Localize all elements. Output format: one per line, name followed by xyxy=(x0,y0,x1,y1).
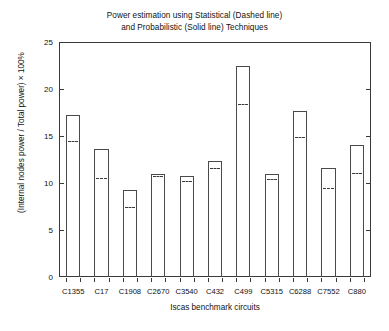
y-tick-label: 5 xyxy=(27,226,53,235)
y-tick-label: 20 xyxy=(27,85,53,94)
bar xyxy=(321,168,335,277)
x-tick-mark xyxy=(250,278,251,282)
statistical-dash-marker xyxy=(96,178,106,179)
x-tick-mark xyxy=(307,278,308,282)
bar xyxy=(180,176,194,277)
statistical-dash-marker xyxy=(153,176,163,177)
bar xyxy=(66,115,80,277)
chart-title-line-1: Power estimation using Statistical (Dash… xyxy=(0,10,389,22)
x-tick-label: C1908 xyxy=(119,287,141,296)
x-tick-mark xyxy=(336,278,337,282)
x-axis-label: Iscas benchmark circuits xyxy=(59,303,371,312)
figure: Power estimation using Statistical (Dash… xyxy=(0,0,389,331)
x-tick-mark xyxy=(364,278,365,282)
x-tick-label: C6288 xyxy=(289,287,311,296)
x-tick-mark xyxy=(180,278,181,282)
y-axis-label: (Internal nodes power / Total power) × 1… xyxy=(17,28,26,238)
bars-layer xyxy=(59,42,371,277)
y-tick-label: 25 xyxy=(27,38,53,47)
chart-title-line-2: and Probabilistic (Solid line) Technique… xyxy=(0,22,389,34)
y-tick-label: 0 xyxy=(27,273,53,282)
x-tick-label: C7552 xyxy=(317,287,339,296)
x-tick-mark xyxy=(137,278,138,282)
x-tick-mark xyxy=(66,278,67,282)
statistical-dash-marker xyxy=(323,188,333,189)
bar xyxy=(350,145,364,277)
bar xyxy=(236,66,250,278)
statistical-dash-marker xyxy=(68,141,78,142)
bar xyxy=(151,174,165,277)
x-tick-mark xyxy=(350,278,351,282)
x-tick-label: C17 xyxy=(95,287,109,296)
chart-title: Power estimation using Statistical (Dash… xyxy=(0,10,389,33)
statistical-dash-marker xyxy=(125,207,135,208)
x-tick-label: C2670 xyxy=(147,287,169,296)
x-tick-mark xyxy=(94,278,95,282)
x-tick-mark xyxy=(279,278,280,282)
x-tick-label: C432 xyxy=(206,287,224,296)
x-tick-mark xyxy=(165,278,166,282)
x-tick-mark xyxy=(80,278,81,282)
x-tick-mark xyxy=(109,278,110,282)
x-tick-mark xyxy=(222,278,223,282)
x-tick-mark xyxy=(236,278,237,282)
bar xyxy=(123,190,137,277)
bar xyxy=(265,174,279,277)
x-tick-mark xyxy=(321,278,322,282)
x-tick-mark xyxy=(208,278,209,282)
x-tick-label: C1355 xyxy=(62,287,84,296)
statistical-dash-marker xyxy=(210,168,220,169)
x-tick-label: C499 xyxy=(234,287,252,296)
bar xyxy=(94,149,108,277)
statistical-dash-marker xyxy=(352,173,362,174)
bar xyxy=(208,161,222,277)
x-tick-label: C880 xyxy=(348,287,366,296)
x-tick-label: C3540 xyxy=(175,287,197,296)
x-tick-mark xyxy=(293,278,294,282)
x-tick-mark xyxy=(123,278,124,282)
statistical-dash-marker xyxy=(182,181,192,182)
x-tick-label: C5315 xyxy=(261,287,283,296)
x-tick-mark xyxy=(194,278,195,282)
x-tick-mark xyxy=(151,278,152,282)
statistical-dash-marker xyxy=(238,104,248,105)
statistical-dash-marker xyxy=(267,179,277,180)
bar xyxy=(293,111,307,277)
y-tick-label: 15 xyxy=(27,132,53,141)
x-tick-mark xyxy=(265,278,266,282)
statistical-dash-marker xyxy=(295,137,305,138)
y-tick-label: 10 xyxy=(27,179,53,188)
